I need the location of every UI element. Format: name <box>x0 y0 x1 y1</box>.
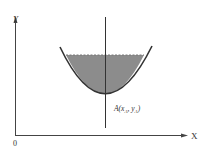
diagram-canvas: Y X 0 A(xA, yA) <box>0 0 208 156</box>
point-a-label: A(xA, yA) <box>113 104 141 114</box>
x-axis-arrow-icon <box>181 134 188 138</box>
x-axis-label: X <box>191 131 198 141</box>
y-axis-label: Y <box>13 14 19 24</box>
origin-label: 0 <box>13 139 17 148</box>
